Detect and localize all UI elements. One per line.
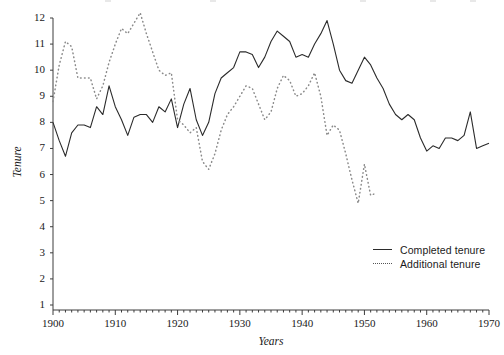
- x-axis-ticks: [53, 310, 489, 315]
- y-tick-label: 4: [0, 220, 45, 232]
- x-tick-label: 1940: [282, 317, 322, 329]
- x-tick-label: 1960: [407, 317, 447, 329]
- y-tick-label: 2: [0, 272, 45, 284]
- legend-item-completed-tenure: Completed tenure: [372, 243, 500, 257]
- y-tick-label: 8: [0, 115, 45, 127]
- data-series-layer: [53, 13, 489, 203]
- legend-label-additional-tenure: Additional tenure: [400, 258, 481, 270]
- x-tick-label: 1970: [469, 317, 504, 329]
- x-tick-label: 1930: [220, 317, 260, 329]
- legend-swatch-solid-line: [372, 244, 394, 256]
- legend-label-completed-tenure: Completed tenure: [400, 244, 485, 256]
- x-axis-title: Years: [241, 335, 301, 347]
- y-tick-label: 11: [0, 37, 45, 49]
- y-tick-label: 5: [0, 194, 45, 206]
- series-line-additional-tenure: [53, 13, 377, 203]
- y-tick-label: 12: [0, 11, 45, 23]
- y-tick-label: 3: [0, 246, 45, 258]
- legend-item-additional-tenure: Additional tenure: [372, 257, 500, 271]
- y-tick-label: 9: [0, 89, 45, 101]
- y-tick-label: 1: [0, 298, 45, 310]
- legend-swatch-dotted-line: [372, 258, 394, 270]
- tenure-line-chart: 123456789101112 190019101920193019401950…: [0, 0, 504, 355]
- x-tick-label: 1910: [95, 317, 135, 329]
- x-tick-label: 1950: [344, 317, 384, 329]
- x-tick-label: 1920: [158, 317, 198, 329]
- x-tick-label: 1900: [33, 317, 73, 329]
- y-axis-title: Tenure: [11, 132, 23, 192]
- y-tick-label: 10: [0, 63, 45, 75]
- series-line-completed-tenure: [53, 21, 489, 157]
- plot-area: [0, 0, 504, 355]
- chart-legend: Completed tenure Additional tenure: [372, 243, 500, 271]
